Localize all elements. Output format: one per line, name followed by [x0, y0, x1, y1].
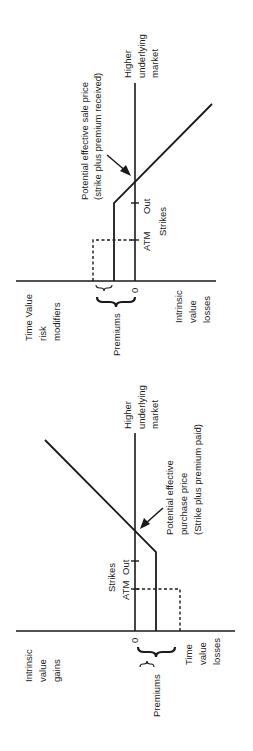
top-time-value-label-2: risk [37, 326, 48, 341]
bottom-time-value-label-3: losses [211, 638, 222, 665]
bottom-higher-label-1: Higher [122, 401, 133, 429]
top-labels: Higher underlying market Potential effec… [23, 34, 212, 356]
top-zero-label: 0 [129, 288, 140, 293]
top-strikes-label: Strikes [157, 207, 168, 236]
top-payoff-line [114, 104, 212, 281]
top-sale-price-label-2: (strike plus premium received) [92, 73, 103, 200]
top-intrinsic-label-1: Intrinsic [173, 290, 184, 323]
top-premiums-label: Premiums [111, 313, 122, 356]
top-sale-price-label-1: Potential effective sale price [79, 82, 90, 200]
bottom-purchase-label-3: (Strike plus premium paid) [192, 424, 203, 535]
bottom-higher-label-3: market [149, 400, 160, 429]
top-higher-label-2: underlying [136, 34, 147, 78]
top-out-label: Out [141, 198, 152, 214]
bottom-small-brace-icon [140, 661, 154, 667]
top-atm-label: ATM [141, 232, 152, 251]
bottom-out-label: Out [120, 559, 131, 575]
bottom-premiums-label: Premiums [151, 674, 162, 717]
bottom-intrinsic-gains-label-1: Intrinsic [23, 649, 34, 682]
bottom-labels: Higher underlying market Potential effec… [23, 385, 222, 717]
top-time-value-label-1: Time Value [23, 294, 34, 341]
top-time-value-label-3: modifiers [51, 302, 62, 341]
top-intrinsic-label-3: losses [201, 296, 212, 323]
bottom-strikes-label: Strikes [106, 563, 117, 592]
bottom-intrinsic-gains-label-2: value [37, 659, 48, 682]
top-higher-label-3: market [149, 49, 160, 78]
bottom-arrow-head-icon [140, 518, 150, 529]
bottom-zero-label: 0 [129, 638, 140, 643]
top-large-brace-icon [97, 297, 135, 307]
top-higher-label-1: Higher [122, 50, 133, 78]
bottom-time-value-label-1: Time [183, 644, 194, 665]
bottom-dashed-premium [135, 589, 180, 631]
options-payoff-diagrams: Higher underlying market Potential effec… [0, 0, 253, 751]
bottom-atm-label: ATM [120, 581, 131, 600]
bottom-payoff-line [45, 440, 156, 631]
top-intrinsic-label-2: value [187, 300, 198, 323]
bottom-purchase-label-2: purchase price [178, 473, 189, 535]
bottom-arrow-line [145, 508, 163, 524]
top-diagram [16, 83, 216, 307]
bottom-time-value-label-2: value [197, 642, 208, 665]
bottom-higher-label-2: underlying [136, 385, 147, 429]
bottom-purchase-label-1: Potential effective [164, 460, 175, 535]
bottom-intrinsic-gains-label-3: gains [51, 659, 62, 682]
bottom-large-brace-icon [138, 647, 175, 657]
top-small-brace-icon [96, 285, 112, 291]
